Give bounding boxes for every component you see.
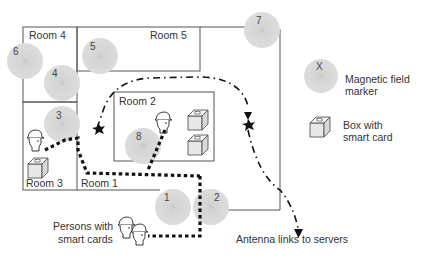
marker-7: 7 [244, 12, 280, 48]
person-icon [131, 224, 148, 245]
svg-text:2: 2 [214, 192, 220, 203]
marker-5: 5 [82, 38, 118, 74]
room-2-label: Room 2 [119, 95, 156, 107]
svg-text:3: 3 [56, 110, 62, 121]
svg-text:1: 1 [164, 192, 170, 203]
marker-4: 4 [44, 65, 80, 101]
persons-annotation: Persons with [53, 220, 113, 232]
legend-box-label: Box with [343, 119, 383, 131]
antenna-icon [92, 123, 105, 135]
svg-text:8: 8 [136, 131, 142, 142]
persons-annotation-2: smart cards [58, 233, 113, 245]
legend-marker-label: Magnetic field [345, 73, 410, 85]
box-icon [188, 110, 208, 130]
arrow-head-icon [244, 112, 252, 120]
box-icon [188, 135, 208, 155]
legend-box: Box with smart card [310, 117, 393, 143]
person-icon [27, 130, 44, 151]
legend: X Magnetic field marker Box with smart c… [304, 59, 410, 143]
antenna-icon [242, 119, 255, 131]
person-icon [118, 217, 135, 238]
legend-marker-label-2: marker [345, 85, 378, 97]
marker-3: 3 [44, 106, 80, 142]
svg-text:X: X [316, 61, 323, 72]
antenna-annotation: Antenna links to servers [236, 233, 348, 245]
svg-text:4: 4 [52, 68, 58, 79]
room-5-label: Room 5 [150, 29, 187, 41]
marker-6: 6 [7, 43, 43, 79]
box-icon [28, 158, 48, 178]
legend-box-label-2: smart card [343, 131, 393, 143]
box-icon [310, 117, 330, 137]
legend-marker: X Magnetic field marker [304, 59, 410, 97]
marker-2: 2 [193, 189, 229, 225]
svg-text:5: 5 [90, 41, 96, 52]
room-1-label: Room 1 [81, 177, 118, 189]
magnetic-markers: 6 5 4 7 3 8 1 2 [7, 12, 280, 225]
marker-8: 8 [125, 128, 161, 164]
marker-1: 1 [155, 189, 191, 225]
svg-text:7: 7 [256, 15, 262, 26]
svg-text:6: 6 [13, 46, 19, 57]
room-4-label: Room 4 [29, 29, 66, 41]
room-3-label: Room 3 [26, 177, 63, 189]
floor-plan-diagram: Room 4 Room 5 Room 2 Room 3 Room 1 6 5 4… [0, 0, 427, 261]
